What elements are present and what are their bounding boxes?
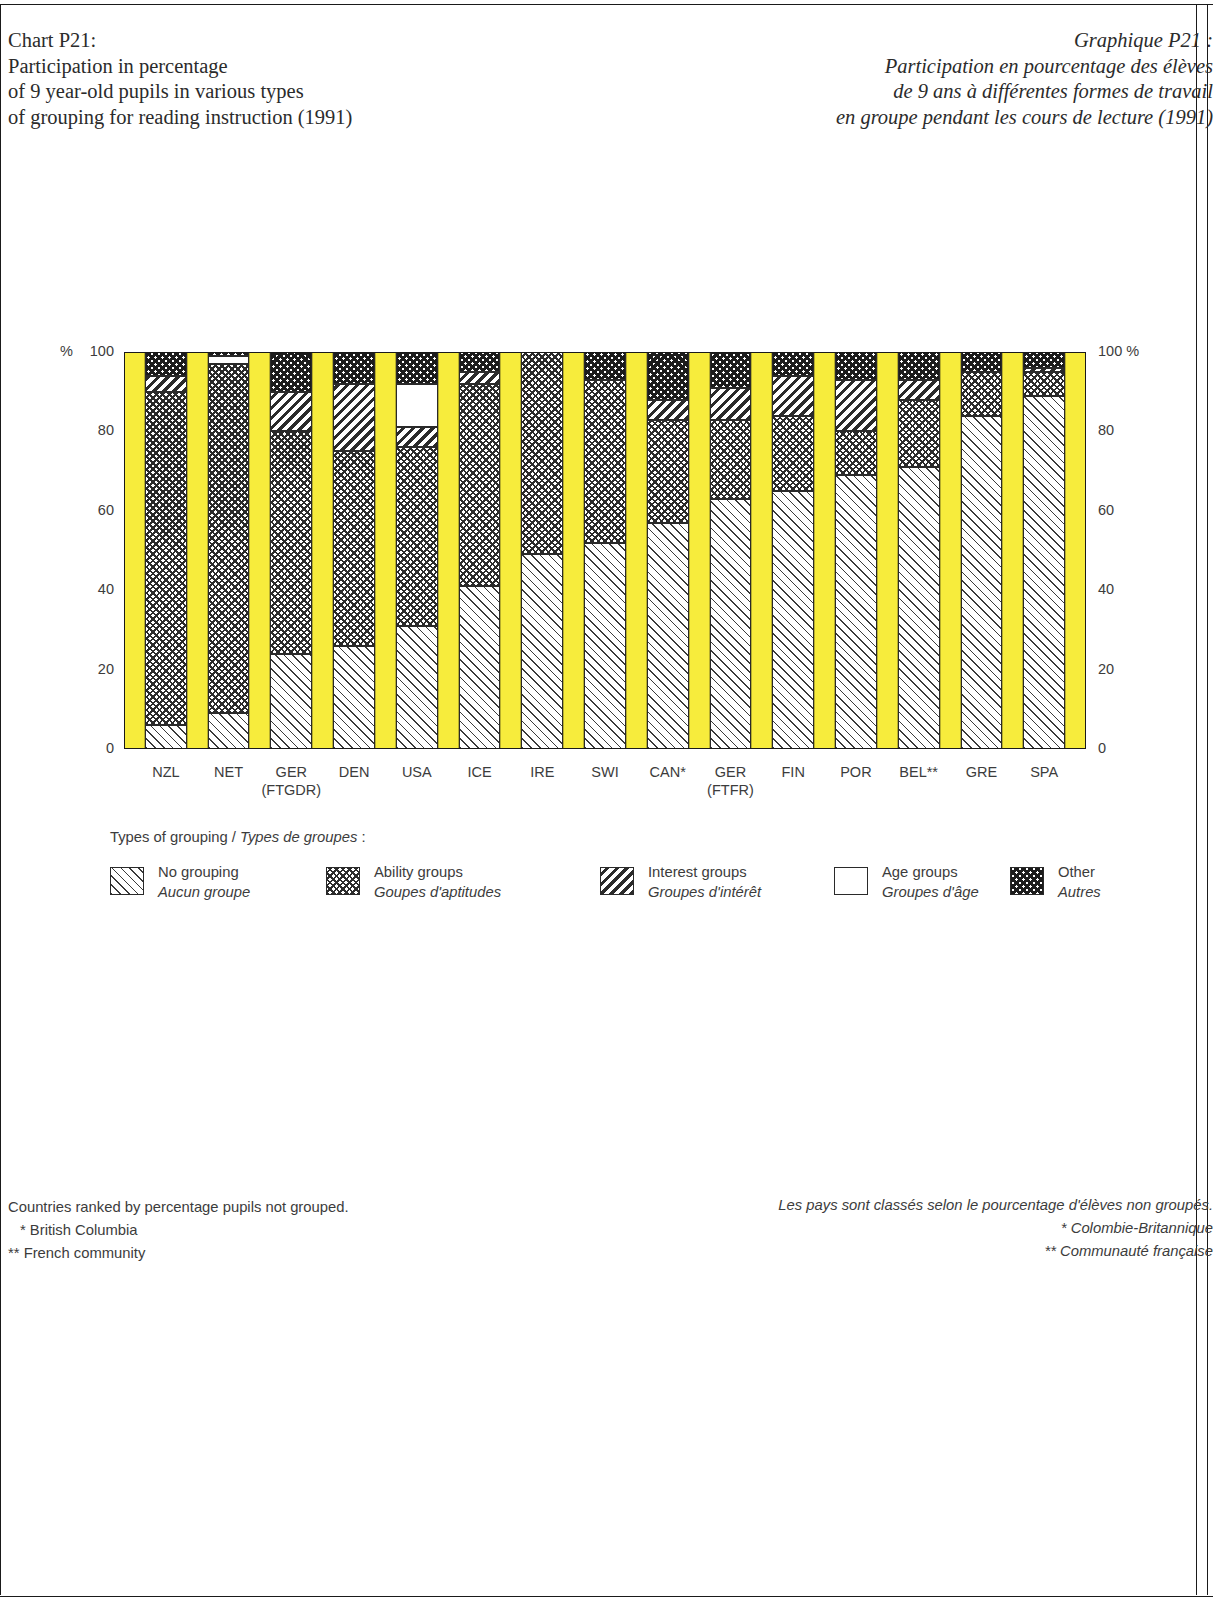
separator-fill <box>438 352 459 749</box>
bar-ire <box>521 352 563 749</box>
bar-separator-1 <box>187 352 208 749</box>
x-label-line2: (FTFR) <box>685 781 775 799</box>
bar-segment-ability <box>270 431 312 653</box>
bar-segment-none <box>647 523 689 749</box>
page-rule-left <box>0 4 1 1595</box>
bar-segment-none <box>270 654 312 749</box>
bar-segment-none <box>459 586 501 749</box>
bar-segment-ability <box>208 364 250 713</box>
footnotes-french: Les pays sont classés selon le pourcenta… <box>778 1194 1213 1263</box>
footnote-fr-star1: * Colombie-Britannique <box>778 1217 1213 1240</box>
separator-fill <box>124 352 145 749</box>
bar-segment-ability <box>333 451 375 646</box>
bar-separator-6 <box>500 352 521 749</box>
bar-segment-none <box>772 491 814 749</box>
bar-swi <box>584 352 626 749</box>
bar-separator-2 <box>249 352 270 749</box>
legend-label-fr: Goupes d'aptitudes <box>374 884 501 900</box>
legend-label-en: Other <box>1058 864 1095 880</box>
bar-segment-interest <box>835 380 877 432</box>
bar-segment-none <box>835 475 877 749</box>
bar-spa <box>1023 352 1065 749</box>
separator-fill <box>689 352 710 749</box>
bar-can <box>647 352 689 749</box>
bar-segment-none <box>710 499 752 749</box>
y-tick-right-60: 60 <box>1098 502 1114 518</box>
bar-separator-4 <box>375 352 396 749</box>
y-tick-left-80: 80 <box>62 422 114 438</box>
title-fr-line-2: Participation en pourcentage des élèves <box>653 54 1213 80</box>
title-en-line-3: of 9 year-old pupils in various types <box>8 79 568 105</box>
bar-segment-age <box>396 384 438 428</box>
legend-label-fr: Groupes d'âge <box>882 884 979 900</box>
legend-swatch-none-icon <box>110 867 144 895</box>
bar-nzl <box>145 352 187 749</box>
bar-bel <box>898 352 940 749</box>
bar-segment-interest <box>459 372 501 384</box>
bar-segment-other <box>710 352 752 388</box>
footnote-en-star1: * British Columbia <box>8 1219 349 1242</box>
bar-segment-none <box>396 626 438 749</box>
legend-swatch-other-icon <box>1010 867 1044 895</box>
bar-segment-interest <box>396 427 438 447</box>
bar-segment-interest <box>145 376 187 392</box>
bar-den <box>333 352 375 749</box>
x-label-line2: (FTGDR) <box>246 781 336 799</box>
bar-segment-none <box>521 554 563 749</box>
footnote-fr-star2: ** Communauté française <box>778 1240 1213 1263</box>
bar-ice <box>459 352 501 749</box>
bar-segment-none <box>208 713 250 749</box>
bar-segment-other <box>333 352 375 384</box>
bar-usa <box>396 352 438 749</box>
y-tick-left-0: 0 <box>62 740 114 756</box>
bar-separator-12 <box>877 352 898 749</box>
y-tick-right-40: 40 <box>1098 581 1114 597</box>
y-tick-right-20: 20 <box>1098 661 1114 677</box>
bar-segment-interest <box>270 392 312 432</box>
bar-segment-ability <box>772 416 814 491</box>
bar-segment-none <box>145 725 187 749</box>
separator-fill <box>814 352 835 749</box>
bar-separator-8 <box>626 352 647 749</box>
bar-segment-interest <box>772 376 814 416</box>
bar-segment-other <box>647 352 689 400</box>
legend-heading-colon: : <box>357 829 365 845</box>
bar-segment-ability <box>459 384 501 586</box>
y-tick-right-100: 100 % <box>1098 343 1139 359</box>
footnotes-english: Countries ranked by percentage pupils no… <box>8 1196 349 1265</box>
y-axis-unit-left: % <box>60 343 73 359</box>
separator-fill <box>1065 352 1086 749</box>
bar-segment-none <box>333 646 375 749</box>
bar-segment-ability <box>961 372 1003 416</box>
legend-label-en: Ability groups <box>374 864 463 880</box>
bar-segment-none <box>961 416 1003 749</box>
bar-separator-0 <box>124 352 145 749</box>
separator-fill <box>751 352 772 749</box>
bar-segment-interest <box>1023 368 1065 372</box>
bar-segment-other <box>145 352 187 376</box>
legend-swatch-ability-icon <box>326 867 360 895</box>
bar-separator-11 <box>814 352 835 749</box>
legend-swatch-age-icon <box>834 867 868 895</box>
separator-fill <box>312 352 333 749</box>
bar-separator-7 <box>563 352 584 749</box>
bar-separator-13 <box>940 352 961 749</box>
separator-fill <box>563 352 584 749</box>
separator-fill <box>187 352 208 749</box>
title-fr-line-4: en groupe pendant les cours de lecture (… <box>653 105 1213 131</box>
bar-gre <box>961 352 1003 749</box>
bar-segment-other <box>270 352 312 392</box>
bar-segment-other <box>1023 352 1065 368</box>
bar-segment-none <box>584 543 626 749</box>
page-frame <box>0 4 1213 1597</box>
bar-segment-none <box>898 467 940 749</box>
bar-segment-other <box>459 352 501 372</box>
bar-segment-interest <box>333 384 375 451</box>
bar-segment-none <box>1023 396 1065 749</box>
bar-segment-ability <box>584 380 626 543</box>
legend-label-en: No grouping <box>158 864 239 880</box>
bar-segment-ability <box>521 352 563 554</box>
bar-segment-other <box>396 352 438 384</box>
bar-fin <box>772 352 814 749</box>
x-axis-label-spa: SPA <box>999 763 1089 781</box>
